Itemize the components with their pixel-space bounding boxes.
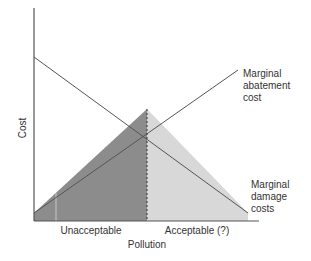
region-left-label: Unacceptable: [60, 225, 122, 236]
mdc-label-line1: Marginal: [251, 179, 289, 190]
x-axis-label: Pollution: [128, 239, 166, 250]
mdc-label-line2: damage: [251, 191, 288, 202]
y-axis-label: Cost: [17, 117, 28, 138]
acceptable-region: [147, 109, 248, 221]
unacceptable-region: [34, 109, 147, 221]
region-right-label: Acceptable (?): [165, 225, 229, 236]
mac-label-line1: Marginal: [243, 68, 281, 79]
chart: Cost Pollution Unacceptable Acceptable (…: [0, 0, 311, 261]
mac-label-line3: cost: [243, 92, 262, 103]
mdc-label-line3: costs: [251, 203, 274, 214]
mac-label-line2: abatement: [243, 80, 290, 91]
